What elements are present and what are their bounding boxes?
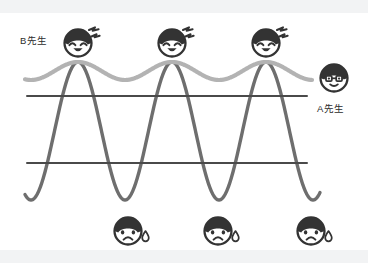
sad-face-trough-1: [115, 218, 149, 245]
eye: [211, 230, 214, 234]
eye: [304, 230, 307, 234]
face-annotations: [0, 0, 368, 263]
eye: [132, 230, 135, 234]
eye: [222, 230, 225, 234]
happy-face-peak-3: [253, 27, 288, 56]
label-teacher-b: B先生: [20, 36, 47, 46]
sad-face-trough-2: [205, 218, 239, 245]
glasses-face-a: [321, 65, 348, 92]
sad-face-trough-3: [298, 218, 332, 245]
happy-face-peak-1: [65, 27, 100, 56]
sweat-drop-icon: [232, 231, 239, 241]
diagram-canvas: B先生 A先生: [0, 0, 368, 263]
sweat-drop-icon: [325, 231, 332, 241]
eye: [121, 230, 124, 234]
happy-face-peak-2: [159, 27, 194, 56]
eye: [315, 230, 318, 234]
label-teacher-a: A先生: [317, 104, 344, 114]
sweat-drop-icon: [142, 231, 149, 241]
